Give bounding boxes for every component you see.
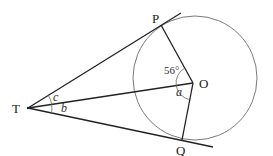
angle-label-56: 56°	[164, 64, 179, 76]
radius-oq	[182, 83, 193, 140]
tangent-line-tp	[28, 13, 181, 108]
label-q: Q	[176, 143, 186, 156]
angle-arc-c	[48, 95, 51, 104]
tangent-line-tq	[28, 108, 213, 147]
circle	[133, 16, 257, 140]
angle-label-b: b	[61, 101, 67, 115]
label-o: O	[199, 76, 208, 91]
label-t: T	[12, 101, 20, 116]
label-p: P	[152, 11, 159, 26]
vertex-dot-t	[27, 107, 29, 109]
angle-label-c: c	[53, 90, 59, 104]
geometry-diagram: P O T Q 56° a c b	[0, 0, 273, 156]
angle-label-a: a	[176, 85, 182, 99]
